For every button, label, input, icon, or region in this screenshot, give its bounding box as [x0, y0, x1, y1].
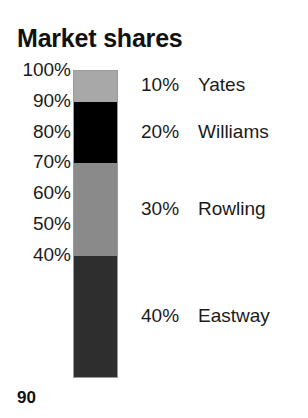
legend-item-williams: 20%Williams — [141, 120, 308, 144]
legend-label: Rowling — [198, 197, 266, 221]
legend-label: Eastway — [198, 304, 270, 328]
legend-label: Yates — [198, 73, 245, 97]
legend-item-eastway: 40%Eastway — [141, 304, 308, 328]
legend-value: 20% — [141, 120, 191, 144]
legend-item-yates: 10%Yates — [141, 73, 308, 97]
legend-value: 10% — [141, 73, 191, 97]
legend-value: 30% — [141, 197, 191, 221]
legend-value: 40% — [141, 304, 191, 328]
page-number: 90 — [17, 388, 36, 408]
legend: 10%Yates20%Williams30%Rowling40%Eastway — [0, 0, 308, 418]
legend-item-rowling: 30%Rowling — [141, 197, 308, 221]
market-shares-figure: Market shares 100%90%80%70%60%50%40% 10%… — [0, 0, 308, 418]
legend-label: Williams — [198, 120, 269, 144]
